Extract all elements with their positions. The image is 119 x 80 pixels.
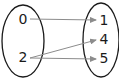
domain-set: 0 2 (2, 5, 44, 77)
codomain-element-1: 1 (100, 12, 109, 28)
arrow-2-to-5 (30, 58, 96, 59)
domain-element-2: 2 (19, 49, 28, 65)
mapping-diagram: 0 2 1 4 5 (0, 0, 119, 80)
codomain-element-4: 4 (100, 31, 109, 47)
domain-element-0: 0 (19, 11, 28, 27)
codomain-set: 1 4 5 (83, 3, 119, 77)
arrow-2-to-4 (30, 40, 96, 58)
arrows (30, 19, 96, 59)
codomain-element-5: 5 (100, 50, 109, 66)
